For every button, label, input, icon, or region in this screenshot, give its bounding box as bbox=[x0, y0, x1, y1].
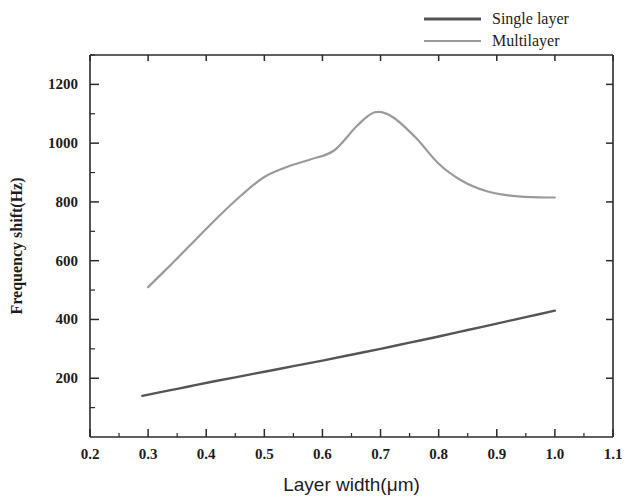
x-tick-label: 0.5 bbox=[255, 446, 274, 462]
x-tick-label: 0.3 bbox=[139, 446, 158, 462]
chart-tick-labels: 0.20.30.40.50.60.70.80.91.01.12004006008… bbox=[48, 76, 622, 462]
x-tick-label: 1.0 bbox=[546, 446, 565, 462]
chart-series bbox=[142, 112, 555, 396]
legend-label-0: Single layer bbox=[492, 10, 570, 28]
y-tick-label: 800 bbox=[56, 194, 79, 210]
y-axis-title: Frequency shift(Hz) bbox=[8, 177, 26, 314]
chart-legend: Single layerMultilayer bbox=[424, 10, 570, 50]
series-line-multilayer bbox=[148, 112, 555, 287]
line-chart: 0.20.30.40.50.60.70.80.91.01.12004006008… bbox=[0, 0, 625, 499]
x-tick-label: 0.8 bbox=[429, 446, 448, 462]
x-tick-label: 0.2 bbox=[81, 446, 100, 462]
x-tick-label: 0.6 bbox=[313, 446, 332, 462]
x-tick-label: 0.4 bbox=[197, 446, 216, 462]
y-tick-label: 600 bbox=[56, 253, 79, 269]
x-tick-label: 1.1 bbox=[604, 446, 623, 462]
y-tick-label: 1000 bbox=[48, 135, 78, 151]
chart-figure: 0.20.30.40.50.60.70.80.91.01.12004006008… bbox=[0, 0, 625, 499]
y-tick-label: 400 bbox=[56, 311, 79, 327]
chart-ticks bbox=[90, 55, 613, 437]
x-axis-title: Layer width(μm) bbox=[283, 474, 420, 495]
x-tick-label: 0.7 bbox=[371, 446, 390, 462]
series-line-single-layer bbox=[142, 311, 555, 396]
y-tick-label: 1200 bbox=[48, 76, 78, 92]
chart-axes bbox=[90, 55, 613, 437]
y-tick-label: 200 bbox=[56, 370, 79, 386]
legend-label-1: Multilayer bbox=[492, 32, 560, 50]
x-tick-label: 0.9 bbox=[487, 446, 506, 462]
